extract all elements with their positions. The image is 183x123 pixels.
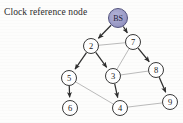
node-base-station[interactable]: BS xyxy=(109,9,128,28)
peer-link-3-8 xyxy=(121,71,148,75)
peer-link-5-4 xyxy=(76,82,113,104)
node-circle-3[interactable] xyxy=(106,69,121,84)
node-9[interactable]: 9 xyxy=(163,95,178,110)
node-7[interactable]: 7 xyxy=(126,35,141,50)
sync-edge-2-to-3 xyxy=(96,52,107,67)
diagram-canvas: Clock reference node BS27538649 xyxy=(0,0,183,123)
peer-link-2-7 xyxy=(99,43,125,45)
node-circle-7[interactable] xyxy=(126,35,141,50)
sync-edge-BS-to-7 xyxy=(123,26,127,32)
sync-edge-8-to-9 xyxy=(159,77,166,92)
sync-edge-2-to-5 xyxy=(75,53,86,70)
node-circle-2[interactable] xyxy=(84,39,99,54)
sync-edge-BS-to-2 xyxy=(98,25,111,38)
sync-edge-3-to-4 xyxy=(115,84,118,98)
node-circle-6[interactable] xyxy=(63,101,78,116)
sync-edge-7-to-8 xyxy=(138,48,149,62)
network-graph: BS27538649 xyxy=(0,0,183,123)
node-3[interactable]: 3 xyxy=(106,69,121,84)
peer-link-4-9 xyxy=(128,103,162,107)
node-circle-4[interactable] xyxy=(113,101,128,116)
node-6[interactable]: 6 xyxy=(63,101,78,116)
base-station-circle[interactable] xyxy=(109,9,128,28)
node-circle-5[interactable] xyxy=(62,71,77,86)
node-4[interactable]: 4 xyxy=(113,101,128,116)
node-circle-9[interactable] xyxy=(163,95,178,110)
node-layer: BS27538649 xyxy=(62,9,178,116)
node-circle-8[interactable] xyxy=(149,63,164,78)
node-8[interactable]: 8 xyxy=(149,63,164,78)
peer-link-7-3 xyxy=(117,49,129,69)
node-5[interactable]: 5 xyxy=(62,71,77,86)
node-2[interactable]: 2 xyxy=(84,39,99,54)
